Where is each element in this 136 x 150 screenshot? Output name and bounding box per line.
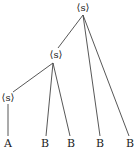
edge-mid-low	[13, 63, 53, 92]
tree-diagram: ⟨s⟩ ⟨s⟩ ⟨s⟩ A B B B B	[0, 0, 136, 150]
leaf-b-3: B	[96, 137, 104, 150]
node-root: ⟨s⟩	[77, 2, 90, 13]
edge-mid-leaf3	[53, 63, 70, 136]
leaf-b-1: B	[41, 137, 49, 150]
leaf-b-4: B	[126, 137, 134, 150]
edge-root-mid	[58, 15, 83, 48]
leaf-a: A	[3, 137, 13, 150]
edge-mid-leaf2	[46, 63, 53, 136]
node-low: ⟨s⟩	[2, 92, 15, 103]
node-mid: ⟨s⟩	[50, 49, 63, 60]
leaf-b-2: B	[67, 137, 75, 150]
edge-root-leaf4	[83, 15, 100, 136]
edge-root-leaf5	[83, 15, 129, 136]
